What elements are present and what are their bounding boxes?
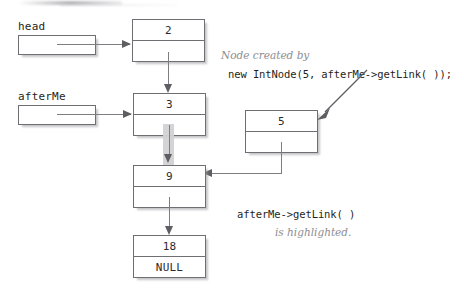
- arrowhead-afterme-to-node3: [123, 110, 132, 118]
- arrowhead-node3-to-node9: [164, 154, 172, 163]
- connector-node2-to-node3: [168, 52, 169, 86]
- node-value-cell: 9: [134, 166, 205, 187]
- connector-head-to-node2: [57, 44, 130, 45]
- connector-node5-down: [281, 142, 282, 174]
- node-value-cell: 2: [133, 20, 204, 41]
- arrowhead-node9-to-node18: [165, 226, 173, 235]
- connector-node5-to-node9: [212, 173, 282, 174]
- pointer-label-head: head: [18, 20, 45, 33]
- node-link-cell: NULL: [134, 257, 205, 278]
- arrowhead-node2-to-node3: [164, 84, 172, 93]
- scan-artifact-top-secondary: [60, 4, 180, 6]
- arrowhead-head-to-node2: [122, 40, 131, 48]
- annotation-is-highlighted: is highlighted.: [275, 226, 351, 238]
- pointer-box-head: [18, 35, 96, 55]
- pointer-label-afterme: afterMe: [18, 90, 66, 103]
- list-node-18: 18 NULL: [133, 235, 206, 278]
- callout-arrow-to-node5: [305, 66, 375, 126]
- connector-afterme-to-node3: [57, 114, 131, 115]
- node-value-cell: 18: [134, 236, 205, 257]
- annotation-node-created-by: Node created by: [221, 49, 309, 61]
- annotation-getlink-code: afterMe->getLink( ): [237, 208, 355, 220]
- connector-node9-to-node18: [169, 197, 170, 229]
- pointer-box-afterme: [18, 105, 96, 125]
- node-value-cell: 3: [134, 94, 205, 115]
- diagram-canvas: head afterMe 2 3 5 9 18 NULL N: [0, 0, 464, 296]
